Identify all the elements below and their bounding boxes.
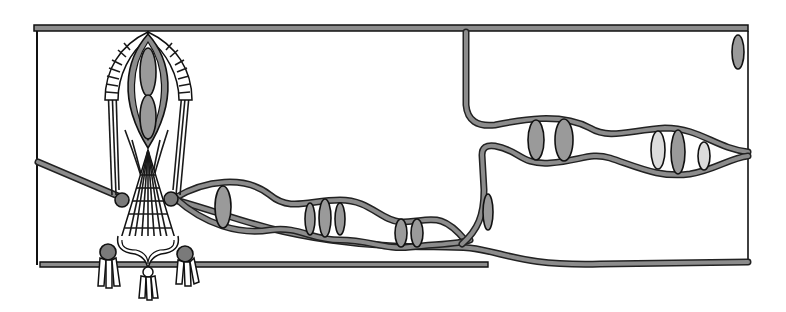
left-diagonal-band [38,162,118,196]
frieze-illustration [0,0,786,312]
knob-left [115,193,129,207]
right-upper-band [466,32,748,152]
column-ornament [98,32,199,300]
knob-bottom-right [177,246,193,262]
knob-right [164,192,178,206]
vertical-band-lens [483,194,493,230]
corner-lens [732,35,744,69]
knob-bottom-left [100,244,116,260]
